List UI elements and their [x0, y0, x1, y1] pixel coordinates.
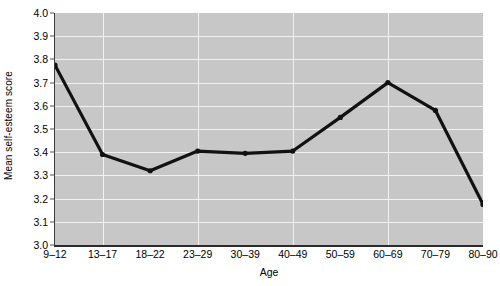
- y-axis-tick-label: 3.4: [16, 146, 48, 158]
- y-axis-tick-mark: [50, 221, 54, 222]
- y-axis-tick-mark: [50, 129, 54, 130]
- y-axis-tick-mark: [50, 152, 54, 153]
- y-axis-tick-label: 3.1: [16, 216, 48, 228]
- x-axis-tick-label: 13–17: [88, 248, 117, 260]
- x-axis-tick-label: 30–39: [231, 248, 260, 260]
- y-axis-tick-label: 3.9: [16, 30, 48, 42]
- y-axis-tick-label: 3.6: [16, 100, 48, 112]
- y-axis-tick-label: 4.0: [16, 7, 48, 19]
- y-axis-tick-labels: 3.03.13.23.33.43.53.63.73.83.94.0: [16, 0, 48, 286]
- y-axis-tick-label: 3.3: [16, 169, 48, 181]
- y-axis-tick-mark: [50, 175, 54, 176]
- plot-area: [55, 13, 483, 245]
- line-chart: Mean self-esteem score 3.03.13.23.33.43.…: [0, 0, 500, 286]
- y-axis-tick-mark: [50, 198, 54, 199]
- y-axis-tick-mark: [50, 105, 54, 106]
- x-axis-tick-label: 80–90: [468, 248, 497, 260]
- data-point-marker: [290, 148, 295, 153]
- x-axis-tick-label: 23–29: [183, 248, 212, 260]
- y-axis-tick-label: 3.5: [16, 123, 48, 135]
- data-point-marker: [148, 168, 153, 173]
- x-axis-tick-label: 60–69: [373, 248, 402, 260]
- data-point-marker: [100, 152, 105, 157]
- y-axis-tick-mark: [50, 245, 54, 246]
- y-axis-tick-mark: [50, 82, 54, 83]
- x-axis-tick-label: 9–12: [43, 248, 66, 260]
- data-point-marker: [433, 108, 438, 113]
- y-axis-tick-label: 3.2: [16, 193, 48, 205]
- data-point-marker: [195, 148, 200, 153]
- x-axis-tick-label: 18–22: [136, 248, 165, 260]
- y-axis-title: Mean self-esteem score: [0, 0, 16, 250]
- series-line: [55, 65, 483, 204]
- y-axis-tick-mark: [50, 13, 54, 14]
- y-axis-tick-mark: [50, 59, 54, 60]
- data-point-marker: [243, 151, 248, 156]
- x-axis-tick-label: 40–49: [278, 248, 307, 260]
- series-line-group: [55, 13, 483, 245]
- y-axis-tick-label: 3.8: [16, 53, 48, 65]
- y-axis-title-text: Mean self-esteem score: [3, 71, 14, 180]
- data-point-marker: [385, 80, 390, 85]
- x-axis-title: Age: [55, 266, 483, 278]
- y-axis-tick-label: 3.7: [16, 77, 48, 89]
- x-axis-tick-label: 50–59: [326, 248, 355, 260]
- x-axis-line: [54, 245, 483, 247]
- data-point-marker: [338, 115, 343, 120]
- x-axis-tick-label: 70–79: [421, 248, 450, 260]
- y-axis-tick-mark: [50, 36, 54, 37]
- x-axis-tick-labels: 9–1213–1718–2223–2930–3940–4950–5960–697…: [55, 248, 483, 264]
